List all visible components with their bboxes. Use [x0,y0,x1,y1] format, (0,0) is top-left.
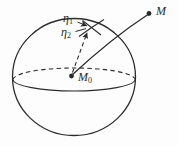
label-eta1: η1 [63,12,73,24]
label-m0: M0 [78,71,92,83]
line-m0-to-m [72,15,148,76]
label-eta2: η2 [61,26,71,38]
radius-arrow-dashed [73,33,88,73]
eta2-leader-line [76,29,87,32]
label-m-base: M [156,4,166,18]
sphere-figure: η1 η2 M0 M [0,0,178,146]
label-m0-base: M [78,70,88,84]
equator-front [13,80,136,92]
label-eta2-sub: 2 [67,31,71,40]
center-point-m0 [69,74,74,79]
label-eta1-sub: 1 [69,17,73,26]
label-m: M [156,5,166,17]
label-m0-sub: 0 [88,76,92,85]
point-m [147,11,152,16]
